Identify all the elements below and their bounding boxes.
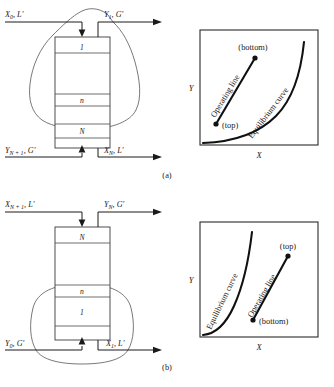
- stream-label-b-bottom-right: X1, L′: [105, 339, 125, 349]
- arrow-a-bottom-right: [153, 154, 162, 161]
- chart-a-label-bottom: (bottom): [238, 43, 268, 52]
- panel-b-chart: (bottom) (top) Equilibrium curve Operati…: [189, 222, 318, 352]
- panel-b-column-schematic: N n 1 XN + 1, L′ YN, G′ Y0, G′ X1, L′: [4, 200, 162, 364]
- arrow-a-top-right: [153, 19, 162, 26]
- stream-label-a-top-right: Y1, G′: [104, 10, 124, 20]
- panel-a-column-schematic: 1 n N X0, L′ Y1, G′ YN + 1, G′ XN, L′: [4, 9, 162, 161]
- chart-b-label-bottom: (bottom): [259, 317, 289, 326]
- arrow-b-top-left: [79, 220, 86, 228]
- stream-line-b-top-right: [98, 212, 155, 227]
- stream-label-a-bottom-right: XN, L′: [103, 146, 124, 156]
- column-body-b: [55, 227, 110, 340]
- stage-label-b-1: 1: [80, 308, 84, 317]
- chart-a-label-top: (top): [222, 121, 238, 130]
- stream-line-a-top-right: [98, 22, 155, 37]
- stream-label-b-top-right: YN, G′: [104, 200, 125, 210]
- chart-b-point-top: [285, 253, 290, 258]
- stream-line-b-top-left: [5, 212, 82, 222]
- stream-label-b-top-left: XN + 1, L′: [4, 200, 35, 210]
- chart-b-label-top: (top): [280, 242, 296, 251]
- chart-a-ylabel: Y: [189, 83, 195, 93]
- figure-caption-a: (a): [162, 171, 172, 180]
- chart-b-ylabel: Y: [189, 275, 195, 285]
- chart-a-point-top: [213, 121, 218, 126]
- arrow-b-top-right: [153, 209, 162, 216]
- stage-label-b-N: N: [78, 233, 85, 242]
- stream-line-a-top-left: [5, 22, 82, 32]
- stream-label-a-top-left: X0, L′: [4, 10, 24, 20]
- arrow-a-top-left: [79, 30, 86, 38]
- stream-label-a-bottom-left: YN + 1, G′: [5, 146, 36, 156]
- chart-b-xlabel: X: [255, 342, 262, 352]
- figure-caption-b: (b): [162, 363, 172, 372]
- stream-label-b-bottom-left: Y0, G′: [5, 339, 25, 349]
- chart-a-xlabel: X: [255, 150, 262, 160]
- chart-a-point-bottom: [252, 55, 257, 60]
- stage-label-a-n: n: [80, 96, 84, 105]
- stage-label-a-1: 1: [80, 43, 84, 52]
- figure-countercurrent-stage-diagrams: 1 n N X0, L′ Y1, G′ YN + 1, G′ XN, L′: [0, 0, 334, 387]
- stage-label-a-N: N: [78, 127, 85, 136]
- stage-label-b-n: n: [80, 287, 84, 296]
- panel-a-chart: (bottom) (top) Operating line Equilibriu…: [189, 30, 318, 160]
- arrow-b-bottom-right: [153, 347, 162, 354]
